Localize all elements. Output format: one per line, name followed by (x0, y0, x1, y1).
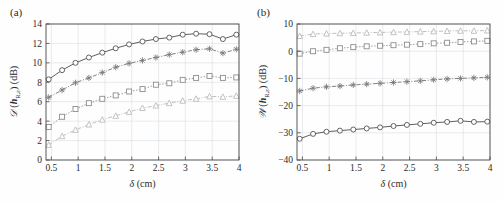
x-tick-label: 4 (237, 163, 242, 173)
marker-square (445, 40, 450, 45)
marker-square (404, 42, 409, 47)
marker-square (180, 77, 185, 82)
marker-circle (220, 37, 225, 42)
marker-triangle (73, 127, 79, 133)
x-tick-label: 1.5 (99, 163, 111, 173)
panel-a: (a) 0.511.522.533.5402468101214δ (cm)𝒟 (… (0, 0, 251, 202)
marker-square (207, 73, 212, 78)
marker-circle (378, 125, 383, 130)
marker-circle (297, 136, 302, 141)
marker-triangle (418, 29, 424, 35)
x-axis-title: δ (cm) (129, 178, 155, 190)
y-tick-label: −20 (278, 101, 293, 111)
marker-triangle (485, 28, 491, 34)
marker-circle (46, 77, 51, 82)
marker-square (46, 124, 51, 129)
y-tick-label: −30 (278, 128, 293, 138)
x-tick-label: 0.5 (296, 163, 308, 173)
marker-triangle (207, 93, 213, 99)
x-tick-label: 3.5 (206, 163, 218, 173)
y-tick-label: 6 (37, 97, 42, 107)
marker-square (311, 49, 316, 54)
marker-square (140, 87, 145, 92)
marker-square (127, 89, 132, 94)
y-tick-label: −10 (278, 74, 293, 84)
marker-circle (324, 129, 329, 134)
panel-a-tag: (a) (10, 6, 22, 18)
marker-square (324, 47, 329, 52)
marker-square (351, 45, 356, 50)
marker-triangle (310, 31, 316, 37)
series-curve-4 (46, 93, 239, 148)
x-tick-label: 1 (76, 163, 81, 173)
marker-circle (60, 68, 65, 73)
marker-triangle (180, 98, 186, 104)
marker-circle (180, 32, 185, 37)
marker-circle (140, 39, 145, 44)
y-tick-label: 12 (33, 39, 43, 49)
marker-triangle (140, 105, 146, 111)
marker-square (297, 51, 302, 56)
marker-square (113, 93, 118, 98)
series-line (49, 96, 237, 145)
marker-square (153, 82, 158, 87)
marker-square (167, 81, 172, 86)
marker-circle (431, 120, 436, 125)
marker-square (418, 42, 423, 47)
marker-triangle (59, 133, 65, 139)
marker-square (391, 43, 396, 48)
marker-square (194, 75, 199, 80)
series-group (46, 31, 240, 147)
marker-circle (445, 119, 450, 124)
x-tick-label: 4 (488, 163, 493, 173)
x-tick-label: 1 (327, 163, 332, 173)
y-tick-label: 10 (284, 19, 294, 29)
y-tick-label: 0 (37, 155, 42, 165)
marker-circle (86, 55, 91, 60)
marker-circle (391, 124, 396, 129)
marker-circle (234, 32, 239, 37)
panel-b-plot: 0.511.522.533.54−40−30−20−10010δ (cm)𝒲 (… (251, 0, 503, 202)
series-group (297, 28, 491, 142)
marker-circle (113, 46, 118, 51)
marker-circle (404, 122, 409, 127)
series-curve-3 (297, 74, 491, 94)
x-tick-label: 3.5 (457, 163, 469, 173)
x-tick-label: 2 (380, 163, 385, 173)
marker-square (86, 101, 91, 106)
series-curve-4 (297, 118, 490, 141)
marker-circle (153, 37, 158, 42)
y-axis-title: 𝒲 (hR,ε) (dB) (257, 65, 270, 119)
marker-circle (311, 131, 316, 136)
marker-square (458, 39, 463, 44)
x-tick-label: 2.5 (404, 163, 416, 173)
marker-circle (194, 31, 199, 36)
panel-b-tag: (b) (257, 6, 270, 18)
marker-triangle (126, 109, 132, 115)
series-curve-2 (297, 38, 490, 56)
marker-square (471, 39, 476, 44)
y-axis-title: 𝒟 (hR,ε) (dB) (8, 66, 21, 118)
y-tick-label: −40 (278, 155, 293, 165)
marker-square (73, 107, 78, 112)
y-tick-label: 10 (33, 58, 43, 68)
x-tick-label: 3 (434, 163, 439, 173)
marker-square (431, 41, 436, 46)
marker-triangle (99, 117, 105, 123)
marker-triangle (46, 142, 52, 148)
x-axis-title: δ (cm) (380, 178, 406, 190)
x-tick-label: 0.5 (45, 163, 57, 173)
y-tick-label: 14 (33, 19, 43, 29)
figure-root: (a) 0.511.522.533.5402468101214δ (cm)𝒟 (… (0, 0, 503, 202)
marker-square (60, 114, 65, 119)
marker-circle (167, 35, 172, 40)
marker-square (485, 38, 490, 43)
marker-square (378, 43, 383, 48)
marker-circle (418, 121, 423, 126)
x-tick-label: 3 (183, 163, 188, 173)
marker-square (220, 75, 225, 80)
marker-circle (485, 119, 490, 124)
marker-square (337, 46, 342, 51)
x-tick-label: 2 (129, 163, 134, 173)
x-tick-label: 2.5 (153, 163, 165, 173)
